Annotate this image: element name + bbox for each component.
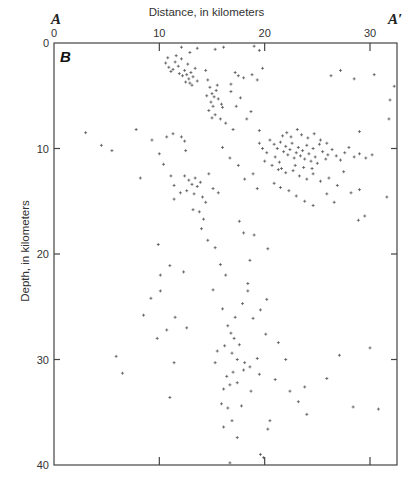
hypocenter-marker [251,73,254,76]
hypocenter-marker [274,155,277,158]
hypocenter-marker [229,90,232,93]
hypocenter-marker [265,298,268,301]
hypocenter-marker [207,172,210,175]
hypocenter-marker [246,289,249,292]
hypocenter-marker [273,182,276,185]
hypocenter-marker [249,110,252,113]
hypocenter-marker [228,461,231,464]
hypocenter-marker [258,142,261,145]
hypocenter-marker [311,167,314,170]
panel-label: B [60,48,71,65]
hypocenter-marker [296,128,299,131]
hypocenter-marker [135,128,138,131]
hypocenter-marker [243,178,246,181]
hypocenter-marker [217,191,220,194]
hypocenter-marker [169,174,172,177]
hypocenter-marker [290,135,293,138]
hypocenter-marker [295,151,298,154]
hypocenter-marker [213,95,216,98]
hypocenter-marker [215,89,218,92]
hypocenter-marker [253,234,256,237]
hypocenter-marker [84,131,87,134]
hypocenter-marker [168,264,171,267]
hypocenter-marker [282,150,285,153]
hypocenter-marker [162,163,165,166]
hypocenter-marker [196,79,199,82]
hypocenter-marker [183,140,186,143]
hypocenter-marker [358,130,361,133]
hypocenter-marker [266,247,269,250]
hypocenter-marker [330,74,333,77]
hypocenter-marker [174,60,177,63]
hypocenter-marker [318,143,321,146]
hypocenter-marker [222,426,225,429]
hypocenter-marker [350,191,353,194]
hypocenter-marker [347,146,350,149]
hypocenter-marker [325,192,328,195]
hypocenter-marker [284,171,287,174]
hypocenter-marker [150,139,153,142]
hypocenter-marker [219,263,222,266]
hypocenter-marker [339,69,342,72]
hypocenter-marker [165,328,168,331]
hypocenter-marker [201,196,204,199]
hypocenter-marker [319,139,322,142]
hypocenter-marker [353,77,356,80]
hypocenter-marker [246,282,249,285]
hypocenter-marker [312,172,315,175]
hypocenter-marker [287,189,290,192]
hypocenter-marker [198,210,201,213]
hypocenter-marker [358,152,361,155]
hypocenter-marker [252,172,255,175]
hypocenter-marker [217,97,220,100]
hypocenter-marker [149,297,152,300]
hypocenter-marker [180,135,183,138]
hypocenter-marker [288,390,291,393]
hypocenter-marker [188,51,191,54]
hypocenter-marker [232,128,235,131]
hypocenter-marker [294,164,297,167]
hypocenter-marker [200,227,203,230]
hypocenter-marker [156,337,159,340]
hypocenter-marker [353,155,356,158]
hypocenter-marker [179,191,182,194]
hypocenter-marker [178,72,181,75]
hypocenter-marker [333,201,336,204]
hypocenter-marker [192,208,195,211]
hypocenter-marker [259,453,262,456]
hypocenter-marker [177,65,180,68]
hypocenter-marker [221,146,224,149]
hypocenter-marker [280,167,283,170]
hypocenter-marker [277,168,280,171]
hypocenter-marker [196,185,199,188]
hypocenter-marker [389,98,392,101]
hypocenter-marker [229,83,232,86]
hypocenter-marker [196,47,199,50]
hypocenter-marker [276,147,279,150]
hypocenter-marker [241,302,244,305]
hypocenter-marker [167,66,170,69]
hypocenter-marker [303,158,306,161]
hypocenter-marker [232,371,235,374]
hypocenter-marker [249,390,252,393]
hypocenter-marker [190,183,193,186]
hypocenter-marker [212,187,215,190]
hypocenter-marker [183,174,186,177]
hypocenter-marker [184,149,187,152]
hypocenter-marker [261,67,264,70]
hypocenter-marker [248,365,251,368]
hypocenter-marker [258,49,261,52]
hypocenter-marker [307,152,310,155]
hypocenter-marker [268,419,271,422]
hypocenter-marker [256,78,259,81]
hypocenter-marker [335,154,338,157]
y-tick-label: 20 [37,248,49,260]
hypocenter-marker [173,184,176,187]
hypocenter-marker [185,73,188,76]
hypocenter-marker [298,174,301,177]
hypocenter-marker [281,134,284,137]
hypocenter-marker [243,361,246,364]
hypocenter-marker [314,155,317,158]
hypocenter-marker [180,57,183,60]
hypocenter-marker [183,69,186,72]
